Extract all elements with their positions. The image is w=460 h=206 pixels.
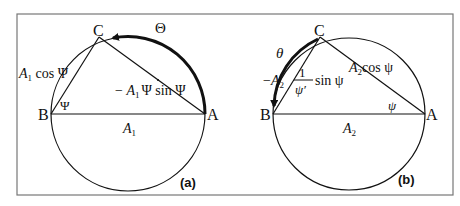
side-ca-label-b: A2cos ψ: [348, 60, 393, 77]
psi-dot-a: [157, 79, 159, 81]
point-a-label-b: A: [426, 106, 438, 123]
panel-b: C B A θ ψ A2cos ψ −A2 1 ψ′ sin ψ A2 (b): [260, 22, 438, 190]
arc-theta-label-b: θ: [276, 45, 284, 61]
angle-psi-label-a: Ψ: [60, 98, 70, 113]
angle-psi-label-b: ψ: [388, 98, 397, 113]
point-c-label-a: C: [93, 22, 104, 39]
fraction-denominator-b: ψ′: [295, 82, 306, 97]
chord-ca-a: [99, 37, 205, 114]
point-a-label-a: A: [207, 106, 219, 123]
theta-arc-arrow-a: [113, 37, 205, 114]
panel-label-a: (a): [180, 175, 196, 190]
side-ca-label-a: − A1Ψ sin Ψ: [115, 83, 186, 100]
diameter-label-a: A1: [122, 121, 136, 138]
point-b-label-a: B: [38, 106, 49, 123]
diagram-canvas: C B A Θ Ψ A1 cos Ψ − A1Ψ sin Ψ A1 (a) C …: [0, 0, 460, 206]
point-b-label-b: B: [260, 106, 271, 123]
side-bc-rest-b: sin ψ: [315, 73, 344, 88]
side-bc-label-a: A1 cos Ψ: [18, 66, 69, 83]
panel-label-b: (b): [398, 172, 415, 187]
arc-theta-label-a: Θ: [155, 20, 166, 36]
fraction-numerator-b: 1: [299, 65, 306, 80]
point-c-label-b: C: [314, 22, 325, 39]
panel-a: C B A Θ Ψ A1 cos Ψ − A1Ψ sin Ψ A1 (a): [18, 20, 219, 191]
diameter-label-b: A2: [342, 121, 356, 138]
